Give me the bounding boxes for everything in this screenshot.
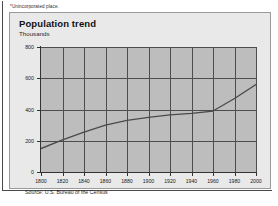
x-axis-tick-label: 1820	[51, 178, 75, 184]
y-axis-tick	[37, 141, 40, 142]
x-axis-tick	[170, 173, 171, 176]
y-axis-tick	[37, 110, 40, 111]
x-axis-tick-label: 1980	[223, 178, 247, 184]
chart-units-label: Thousands	[19, 30, 50, 38]
population-line-series	[41, 47, 256, 172]
chart-card: Population trend Thousands 0200400600800…	[9, 12, 271, 189]
y-axis-tick	[37, 47, 40, 48]
figure-page: *Unincorporated place. Population trend …	[0, 0, 278, 206]
x-axis-tick	[149, 173, 150, 176]
x-axis-tick	[106, 173, 107, 176]
footnote-text: *Unincorporated place.	[10, 3, 59, 10]
chart-title: Population trend	[19, 18, 96, 29]
x-axis-tick-label: 1940	[180, 178, 204, 184]
x-axis-tick	[192, 173, 193, 176]
x-axis-tick	[256, 173, 257, 176]
x-axis-tick-label: 2000	[244, 178, 268, 184]
x-axis-tick-label: 1840	[72, 178, 96, 184]
x-axis-tick	[41, 173, 42, 176]
x-axis-tick	[235, 173, 236, 176]
x-axis-tick	[127, 173, 128, 176]
y-axis-tick	[37, 172, 40, 173]
y-axis-tick-label: 0	[16, 169, 34, 175]
source-note: Source: U.S. Bureau of the Census	[25, 189, 108, 196]
x-axis-tick	[63, 173, 64, 176]
x-axis-tick-label: 1880	[115, 178, 139, 184]
x-axis-tick-label: 1860	[94, 178, 118, 184]
block-left-rule	[2, 1, 3, 191]
y-axis-tick	[37, 78, 40, 79]
y-axis-tick-label: 400	[16, 107, 34, 113]
y-axis-tick-label: 600	[16, 75, 34, 81]
x-axis-tick-label: 1960	[201, 178, 225, 184]
x-axis-tick-label: 1900	[137, 178, 161, 184]
x-axis-tick-label: 1800	[29, 178, 53, 184]
series-line	[41, 85, 256, 149]
y-axis-tick-label: 200	[16, 138, 34, 144]
y-axis	[40, 46, 41, 173]
x-axis-tick-label: 1920	[158, 178, 182, 184]
x-axis-tick	[213, 173, 214, 176]
gridline-vertical	[256, 47, 257, 172]
y-axis-tick-label: 800	[16, 44, 34, 50]
x-axis-tick	[84, 173, 85, 176]
